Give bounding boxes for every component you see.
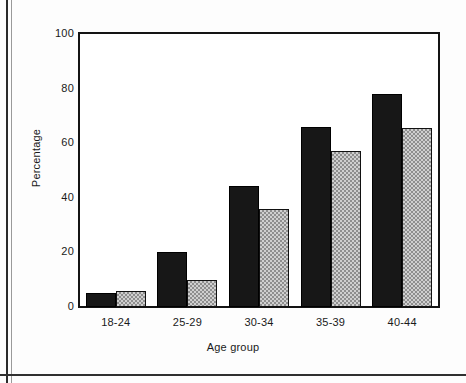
bar-dark [372, 94, 402, 307]
bar-light [402, 128, 432, 307]
y-axis-tick-label: 40 [30, 192, 74, 203]
chart-page: 020406080100 Percentage 18-2425-2930-343… [0, 0, 466, 383]
y-axis-tick-label: 80 [30, 83, 74, 94]
page-border-left-secondary [11, 0, 12, 383]
y-axis-title: Percentage [30, 129, 42, 187]
x-axis-tick-label: 40-44 [367, 316, 437, 328]
bar-group [301, 34, 361, 307]
bar-light [331, 151, 361, 307]
bar-light [187, 280, 217, 307]
x-axis-title: Age group [0, 341, 466, 353]
x-axis-tick-label: 35-39 [296, 316, 366, 328]
bar-dark [86, 293, 116, 307]
y-axis-tick-label: 20 [30, 246, 74, 257]
bar-dark [157, 252, 187, 307]
y-axis-tick-label: 0 [30, 301, 74, 312]
x-axis-tick-label: 30-34 [224, 316, 294, 328]
page-border-left [6, 0, 8, 383]
bar-group [157, 34, 217, 307]
y-axis-tick-label: 100 [30, 28, 74, 39]
bar-light [259, 209, 289, 307]
y-axis-ticks: 020406080100 [24, 0, 74, 383]
bar-group [372, 34, 432, 307]
bar-light [116, 291, 146, 307]
bar-group [86, 34, 146, 307]
x-axis-tick-label: 18-24 [81, 316, 151, 328]
bar-dark [229, 186, 259, 307]
x-axis-tick-label: 25-29 [152, 316, 222, 328]
bar-dark [301, 127, 331, 307]
plot-area [80, 34, 438, 307]
bar-group [229, 34, 289, 307]
